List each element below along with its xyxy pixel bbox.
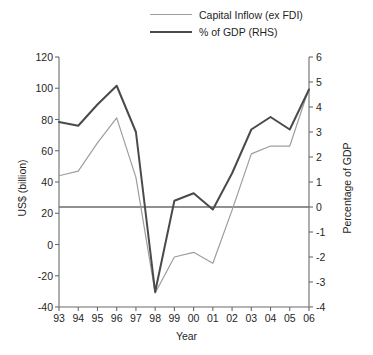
- y-tick-label-left: 20: [41, 207, 53, 219]
- y-tick-label-left: 40: [41, 176, 53, 188]
- x-tick-label: 97: [130, 312, 142, 324]
- legend-label-percent-gdp: % of GDP (RHS): [199, 26, 278, 38]
- x-tick-label: 95: [92, 312, 104, 324]
- chart-plot-svg: [59, 57, 309, 307]
- legend-label-capital-inflow: Capital Inflow (ex FDI): [199, 9, 303, 21]
- x-tick-label: 93: [53, 312, 65, 324]
- x-tick-label: 05: [284, 312, 296, 324]
- x-tick-label: 03: [245, 312, 257, 324]
- y-tick-label-right: -1: [316, 226, 325, 238]
- x-axis-title: Year: [0, 330, 373, 342]
- x-tick-label: 01: [207, 312, 219, 324]
- y-tick-label-left: -40: [38, 301, 53, 313]
- x-tick-label: 94: [72, 312, 84, 324]
- legend-line-swatch-capital-inflow: [150, 14, 192, 15]
- x-tick-label: 99: [169, 312, 181, 324]
- series-group: [59, 86, 309, 293]
- y-tick-label-right: -2: [316, 251, 325, 263]
- y-tick-label-right: -3: [316, 276, 325, 288]
- y-axis-right-title: Percentage of GDP: [341, 113, 353, 263]
- x-tick-label: 06: [303, 312, 315, 324]
- x-tick-label: 04: [265, 312, 277, 324]
- axes-group: [55, 57, 313, 311]
- y-tick-label-left: 0: [47, 239, 53, 251]
- x-tick-label: 96: [111, 312, 123, 324]
- y-tick-label-left: 60: [41, 145, 53, 157]
- y-tick-label-right: 5: [316, 76, 322, 88]
- y-axis-left-title: US$ (billion): [16, 118, 28, 258]
- y-tick-label-right: 6: [316, 51, 322, 63]
- legend-line-swatch-percent-gdp: [150, 31, 192, 33]
- y-tick-label-left: 80: [41, 114, 53, 126]
- series-line-percent-gdp: [59, 86, 309, 292]
- y-tick-label-right: 2: [316, 151, 322, 163]
- y-tick-label-right: 4: [316, 101, 322, 113]
- y-tick-label-left: 100: [35, 82, 53, 94]
- y-tick-label-left: -20: [38, 270, 53, 282]
- y-tick-label-right: 3: [316, 126, 322, 138]
- y-tick-label-right: 1: [316, 176, 322, 188]
- series-line-capital-inflow: [59, 88, 309, 293]
- y-tick-label-right: -4: [316, 301, 325, 313]
- x-tick-label: 98: [149, 312, 161, 324]
- x-tick-label: 00: [188, 312, 200, 324]
- chart-figure: Capital Inflow (ex FDI) % of GDP (RHS) 1…: [0, 0, 373, 355]
- y-tick-label-right: 0: [316, 201, 322, 213]
- plot-area: [59, 57, 309, 307]
- y-tick-label-left: 120: [35, 51, 53, 63]
- x-tick-label: 02: [226, 312, 238, 324]
